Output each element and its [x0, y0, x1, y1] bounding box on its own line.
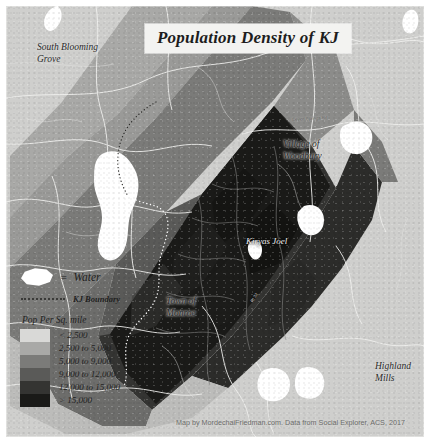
legend-class-label-2: 5,000 to 9,000: [59, 355, 120, 368]
legend-ramp-swatches: [20, 329, 50, 407]
place-label-south-blooming-grove: South Blooming Grove: [37, 42, 98, 65]
legend-swatch-3: [20, 368, 50, 381]
water-pond-sw2: [295, 367, 324, 399]
legend-swatch-0: [20, 329, 50, 342]
dotted-line-icon: [21, 298, 65, 300]
attribution-text: Map by MordechaiFriedman.com. Data from …: [176, 418, 405, 427]
map-legend: = Water KJ Boundary Pop Per Sq. mile < 2…: [20, 264, 148, 407]
place-label-kiryas-joel: Kiryas Joel: [246, 236, 287, 248]
place-label-village-of-woodbury: Village of Woodbury: [283, 139, 322, 162]
water-swatch-icon: [20, 268, 54, 287]
legend-water-row: = Water: [20, 264, 148, 290]
legend-equals-sign: =: [60, 271, 67, 283]
legend-ramp: < 2,5002,500 to 5,0005,000 to 9,0009,000…: [20, 329, 148, 407]
legend-swatch-2: [20, 355, 50, 368]
place-label-highland-mills: Highland Mills: [375, 361, 411, 384]
legend-class-label-1: 2,500 to 5,000: [59, 342, 120, 355]
place-label-town-of-monroe: Town of Monroe: [166, 296, 196, 319]
legend-ramp-title: Pop Per Sq. mile: [22, 315, 148, 325]
map-canvas[interactable]: Population Density of KJ South Blooming …: [6, 6, 424, 437]
legend-class-label-4: 12,000 to 15,000: [59, 381, 120, 394]
legend-class-label-3: 9,000 to 12,000: [59, 368, 120, 381]
page-title: Population Density of KJ: [145, 24, 351, 53]
legend-boundary-row: KJ Boundary: [21, 294, 148, 304]
map-figure: Population Density of KJ South Blooming …: [0, 0, 430, 443]
water-pond-sw1: [257, 368, 290, 401]
legend-class-label-5: > 15,000: [59, 394, 120, 407]
legend-swatch-4: [20, 381, 50, 394]
legend-boundary-label: KJ Boundary: [73, 294, 120, 304]
legend-swatch-1: [20, 342, 50, 355]
legend-class-label-0: < 2,500: [59, 329, 120, 342]
legend-swatch-5: [20, 394, 50, 407]
legend-water-label: Water: [73, 271, 100, 283]
water-pond-north: [340, 122, 372, 154]
legend-ramp-labels: < 2,5002,500 to 5,0005,000 to 9,0009,000…: [59, 329, 120, 407]
